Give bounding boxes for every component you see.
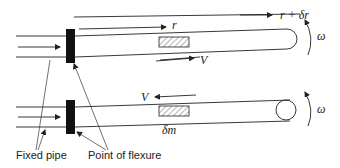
top-mass-element: [159, 37, 189, 47]
fixed-pipe-leader-bottom: [38, 130, 45, 150]
mass-element-label: δm: [162, 123, 177, 137]
top-flexure-block: [66, 29, 75, 63]
top-rotation-arrow: [305, 20, 311, 55]
pipe-flexure-diagram: r + δr r V ω δm V ω Fixed pipe: [0, 0, 340, 168]
bottom-pipe-assembly: δm V ω: [16, 90, 325, 137]
bottom-pipe-end-cap: [276, 100, 296, 120]
bottom-flexure-block: [66, 100, 75, 134]
bottom-rotation-arrow: [305, 92, 311, 126]
top-pipe-assembly: r + δr r V ω: [16, 8, 325, 67]
outer-radius-label: r + δr: [280, 8, 309, 22]
bottom-velocity-arrow: [155, 95, 196, 97]
top-velocity-label: V: [200, 53, 209, 67]
bottom-omega-label: ω: [317, 102, 325, 116]
top-omega-label: ω: [317, 29, 325, 43]
outer-radius-line: [74, 14, 300, 17]
bottom-mass-element: [159, 106, 189, 116]
bottom-velocity-label: V: [141, 90, 150, 104]
point-of-flexure-label: Point of flexure: [88, 149, 161, 161]
inner-radius-arrow: [79, 27, 166, 29]
fixed-pipe-label: Fixed pipe: [16, 149, 67, 161]
inner-radius-label: r: [172, 18, 177, 32]
callouts: Fixed pipe Point of flexure: [16, 60, 161, 161]
